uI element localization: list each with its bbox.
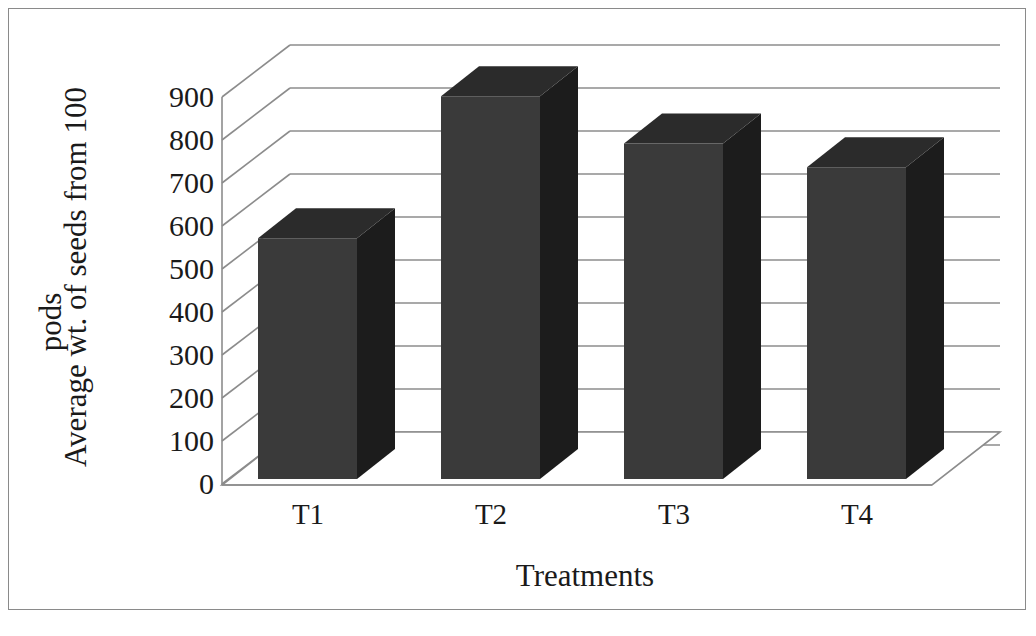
ytick-label-600: 600 [140,211,214,241]
x-axis-title: Treatments [335,558,835,594]
ytick-label-900: 900 [140,82,214,112]
bar-side-T3 [723,114,761,479]
bar-side-T4 [906,137,944,479]
ytick-label-100: 100 [140,426,214,456]
bar-front-T2 [441,96,540,479]
ytick-label-700: 700 [140,168,214,198]
bar-T1 [258,208,395,479]
y-axis-title-line2-wrap: pods [33,192,77,452]
bar-front-T1 [258,238,357,479]
bar-T2 [441,66,578,479]
bar-T3 [624,114,761,479]
bar-front-T4 [807,167,906,479]
y-axis-title-line2: pods [33,293,68,352]
bar-front-T3 [624,144,723,479]
xtick-label-T1: T1 [233,500,383,529]
xtick-label-T2: T2 [416,500,566,529]
ytick-label-200: 200 [140,383,214,413]
bar-T4 [807,137,944,479]
ytick-label-500: 500 [140,254,214,284]
ytick-label-0: 0 [140,469,214,499]
ytick-label-400: 400 [140,297,214,327]
bar-side-T1 [357,208,395,479]
chart-figure: 900 800 700 600 500 400 300 200 100 0 T1… [0,0,1036,636]
ytick-label-300: 300 [140,340,214,370]
ytick-label-800: 800 [140,125,214,155]
bar-side-T2 [540,66,578,479]
xtick-label-T3: T3 [599,500,749,529]
xtick-label-T4: T4 [782,500,932,529]
plot-area: 900 800 700 600 500 400 300 200 100 0 T1… [0,0,1036,636]
